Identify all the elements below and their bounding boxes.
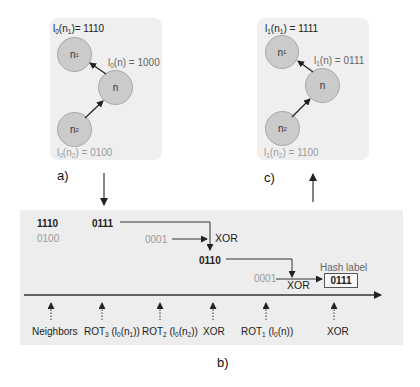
edge-c-n2-n bbox=[292, 99, 310, 117]
flow-rot3-to-xor1 bbox=[120, 222, 210, 250]
diagram-connectors bbox=[0, 0, 420, 387]
edge-c-n-n1 bbox=[298, 61, 313, 72]
edge-a-n2-n bbox=[85, 101, 103, 118]
timeline-step-markers bbox=[51, 303, 334, 320]
flow-xor1-to-xor2 bbox=[226, 259, 292, 277]
edge-a-n-n1 bbox=[90, 63, 106, 74]
